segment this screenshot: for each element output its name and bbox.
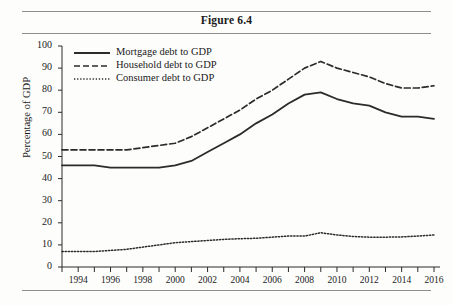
legend-item-label: Household debt to GDP (116, 59, 217, 70)
x-tick-label: 2016 (414, 275, 453, 285)
y-tick-label: 100 (26, 39, 52, 50)
legend-item-label: Consumer debt to GDP (116, 72, 214, 83)
y-tick-label: 40 (26, 172, 52, 183)
y-tick-label: 30 (26, 194, 52, 205)
series-line-1 (62, 92, 434, 167)
y-tick-label: 60 (26, 127, 52, 138)
divider-bottom (22, 290, 431, 291)
y-tick-label: 70 (26, 105, 52, 116)
y-tick-label: 80 (26, 83, 52, 94)
line-chart-svg (0, 0, 453, 305)
legend-item-label: Mortgage debt to GDP (116, 46, 212, 57)
y-tick-label: 0 (26, 260, 52, 271)
figure-page: Figure 6.4 Percentage of GDP 01020304050… (0, 0, 453, 305)
y-tick-label: 50 (26, 150, 52, 161)
series-line-3 (62, 233, 434, 252)
chart-plot-area (0, 0, 453, 305)
y-tick-label: 10 (26, 238, 52, 249)
y-tick-label: 20 (26, 216, 52, 227)
y-tick-label: 90 (26, 61, 52, 72)
